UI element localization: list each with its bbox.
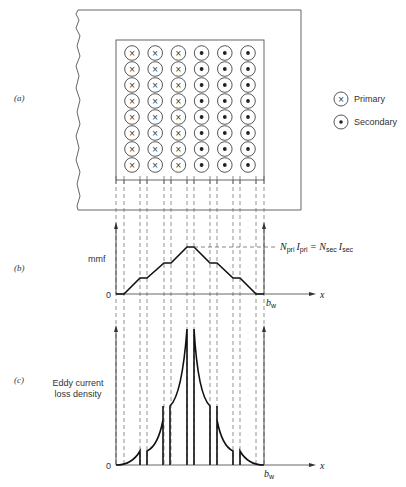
cross-icon: × [152, 113, 159, 122]
legend: × Primary Secondary [334, 92, 398, 129]
mmf-y-arrow-icon [114, 222, 118, 229]
dot-icon [246, 99, 250, 103]
cross-icon: × [129, 81, 136, 90]
cross-icon: × [175, 49, 182, 58]
legend-primary-label: Primary [354, 94, 385, 104]
cross-icon: × [175, 97, 182, 106]
dot-icon [200, 99, 204, 103]
eddy-x-arrow-icon [309, 463, 316, 467]
dot-icon [223, 83, 227, 87]
dot-icon [200, 147, 204, 151]
dot-icon [246, 147, 250, 151]
core-broken-edge [76, 10, 80, 210]
mmf-x-label: x [319, 289, 325, 300]
eddy-y-label-line2: loss density [54, 389, 102, 399]
cross-icon: × [152, 81, 159, 90]
dot-icon [223, 163, 227, 167]
dot-icon [246, 131, 250, 135]
cross-icon: × [175, 65, 182, 74]
mmf-x-arrow-icon [309, 292, 316, 296]
panel-label-b: (b) [14, 263, 25, 273]
dot-icon [246, 163, 250, 167]
dot-icon [200, 51, 204, 55]
cross-icon: × [175, 129, 182, 138]
dot-icon [223, 99, 227, 103]
transformer-winding-diagram: ×××××××××××××××××××××××× (a) (b) (c) × P… [0, 0, 406, 487]
dot-icon [200, 83, 204, 87]
mmf-plot: mmf 0 x bw NpriIpri=NsecIsec [88, 222, 354, 309]
mmf-right-arrow-icon [262, 222, 266, 229]
dot-icon [223, 67, 227, 71]
eddy-x-label: x [319, 460, 325, 471]
eddy-bw-label: bw [264, 468, 275, 480]
panel-label-a: (a) [14, 93, 25, 103]
cross-icon: × [152, 97, 159, 106]
mmf-zero-label: 0 [106, 290, 111, 300]
cross-icon: × [129, 65, 136, 74]
cross-icon: × [152, 161, 159, 170]
dot-icon [246, 67, 250, 71]
mmf-y-label: mmf [88, 254, 106, 264]
legend-primary: × Primary [334, 92, 385, 106]
cross-icon: × [175, 145, 182, 154]
cross-icon: × [152, 129, 159, 138]
cross-icon: × [129, 113, 136, 122]
dot-icon [200, 131, 204, 135]
panel-label-c: (c) [14, 375, 24, 385]
dot-icon [246, 115, 250, 119]
dot-icon [339, 120, 343, 124]
cross-icon: × [175, 161, 182, 170]
projection-lines [116, 176, 264, 465]
cross-icon: × [152, 145, 159, 154]
mmf-ampere-turn-balance: NpriIpri=NsecIsec [279, 241, 354, 254]
dot-icon [223, 115, 227, 119]
cross-icon: × [129, 145, 136, 154]
core-section [76, 10, 301, 210]
cross-icon: × [129, 129, 136, 138]
eddy-y-label-line1: Eddy current [52, 378, 104, 388]
dot-icon [246, 51, 250, 55]
winding-window [116, 40, 264, 180]
eddy-loss-plot: Eddy current loss density 0 x bw [52, 325, 325, 480]
cross-icon: × [129, 97, 136, 106]
dot-icon [200, 163, 204, 167]
dot-icon [223, 147, 227, 151]
eddy-right-arrow-icon [262, 325, 266, 332]
eddy-y-arrow-icon [114, 325, 118, 332]
dot-icon [223, 51, 227, 55]
eddy-zero-label: 0 [106, 461, 111, 471]
dot-icon [200, 67, 204, 71]
cross-icon: × [152, 49, 159, 58]
legend-secondary-label: Secondary [354, 117, 398, 127]
legend-secondary: Secondary [334, 115, 398, 129]
cross-icon: × [338, 95, 345, 104]
cross-icon: × [152, 65, 159, 74]
dot-icon [223, 131, 227, 135]
cross-icon: × [175, 81, 182, 90]
cross-icon: × [129, 49, 136, 58]
cross-icon: × [129, 161, 136, 170]
mmf-curve [116, 247, 264, 294]
mmf-bw-label: bw [266, 297, 277, 309]
dot-icon [200, 115, 204, 119]
cross-icon: × [175, 113, 182, 122]
dot-icon [246, 83, 250, 87]
eddy-curve [116, 329, 264, 465]
